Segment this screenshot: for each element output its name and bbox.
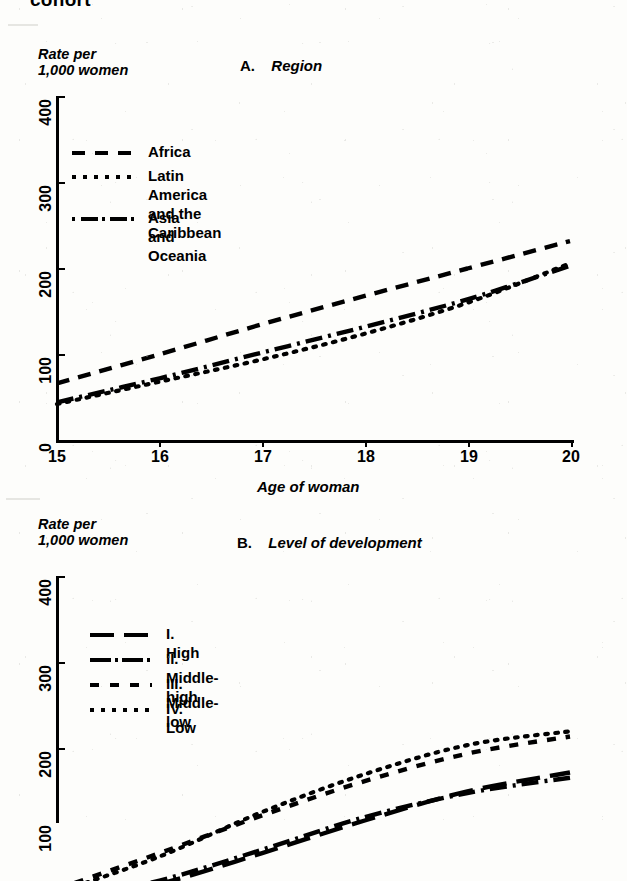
series-line: [57, 266, 570, 402]
chart-panel-region: Rate per 1,000 women A. Region Africa La…: [0, 46, 627, 516]
panel-b-plot-area: 400 300 200 100: [0, 516, 627, 823]
panel-a-plot-area: 0 100 200 300 400 15 16 17 18 19 20 Age …: [0, 46, 627, 516]
chart-panel-level-of-development: Rate per 1,000 women B. Level of develop…: [0, 516, 627, 823]
series-line: [57, 241, 570, 383]
page-running-head: cohort: [30, 0, 91, 11]
series-line: [57, 731, 570, 881]
panel-b-series-layer: [0, 516, 627, 823]
panel-a-series-layer: [0, 46, 627, 516]
scan-artifact: [8, 24, 38, 26]
y-tick-label: 100: [37, 825, 55, 881]
series-line: [57, 737, 570, 881]
